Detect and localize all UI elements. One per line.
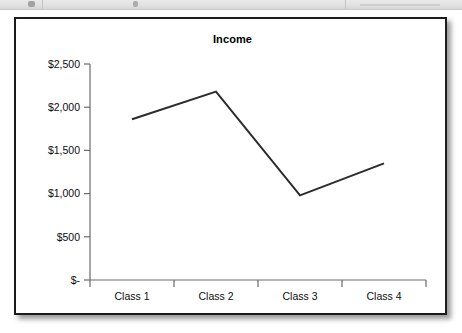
toolbar-icon-b[interactable]	[133, 1, 138, 7]
y-tick-label-0: $-	[16, 274, 80, 286]
x-axis-ticks	[90, 280, 426, 287]
x-tick-label-class-1: Class 1	[90, 290, 174, 302]
y-tick-label-1500: $1,500	[16, 144, 80, 156]
x-tick-label-class-3: Class 3	[258, 290, 342, 302]
income-series-line	[132, 92, 384, 196]
chart-container: Income $2,500 $2,000 $1,500 $1,000 $500	[14, 17, 447, 315]
toolbar-divider-1	[42, 0, 43, 9]
toolbar-placeholder-field[interactable]	[360, 4, 440, 6]
toolbar-icon-a[interactable]	[28, 1, 35, 7]
toolbar-strip	[0, 0, 462, 10]
y-tick-label-2000: $2,000	[16, 101, 80, 113]
y-tick-label-2500: $2,500	[16, 58, 80, 70]
x-tick-label-class-2: Class 2	[174, 290, 258, 302]
x-tick-label-class-4: Class 4	[342, 290, 426, 302]
line-chart-plot	[16, 19, 449, 317]
y-tick-label-500: $500	[16, 231, 80, 243]
y-axis-ticks	[84, 64, 90, 280]
y-tick-label-1000: $1,000	[16, 187, 80, 199]
toolbar-divider-2	[345, 0, 346, 9]
